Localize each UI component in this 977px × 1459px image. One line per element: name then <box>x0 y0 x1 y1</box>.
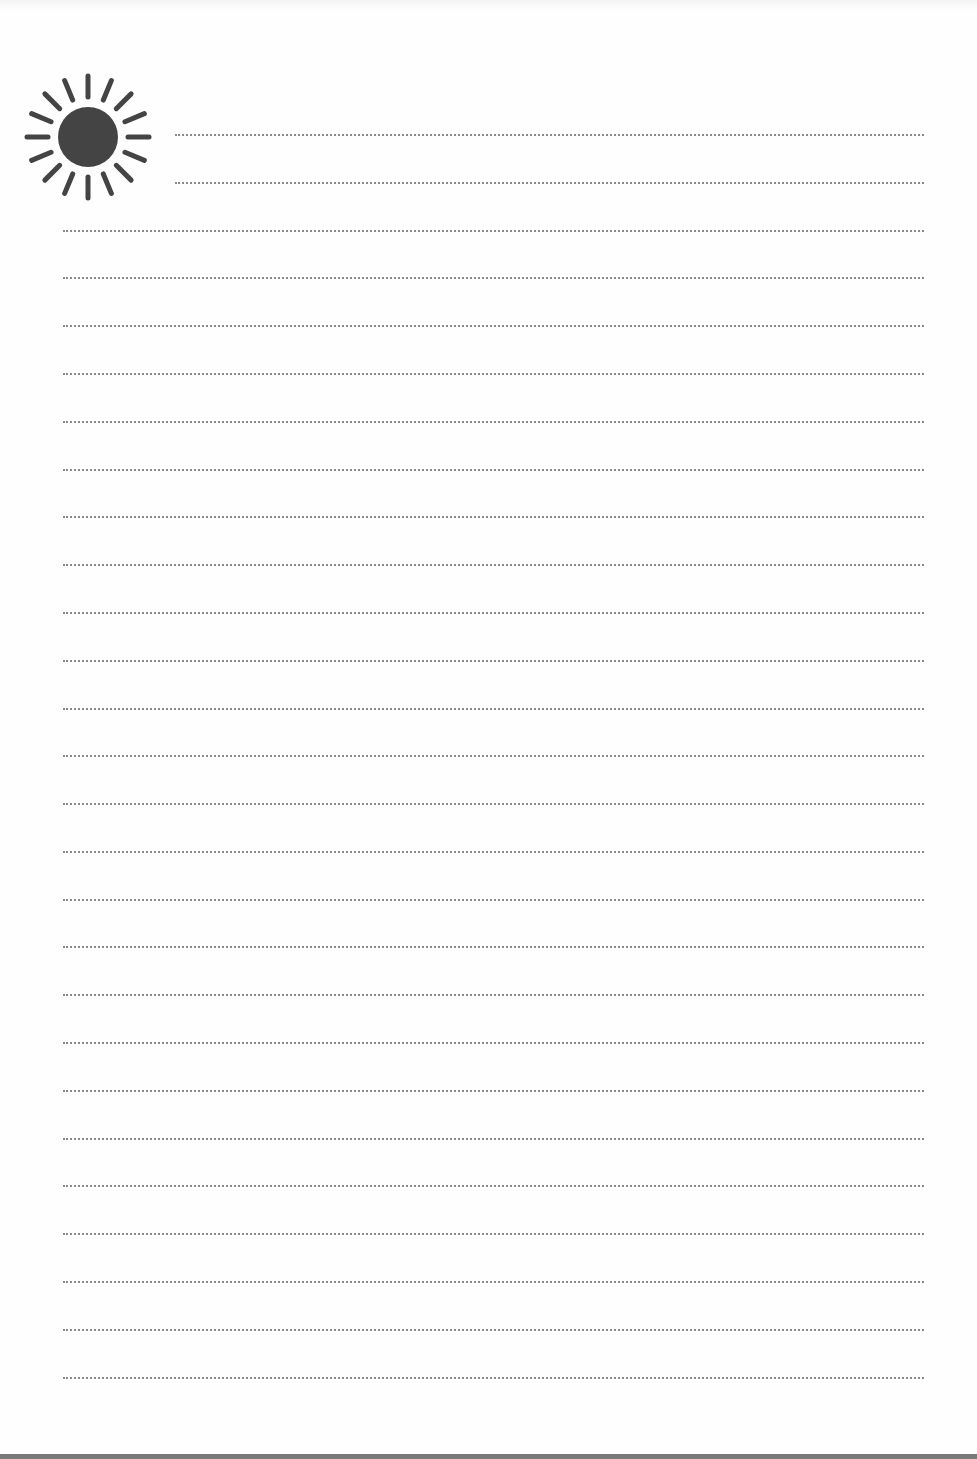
sun-ray <box>125 152 144 160</box>
ruled-line <box>63 1138 924 1140</box>
sun-ray <box>65 174 73 193</box>
sun-ray <box>32 152 51 160</box>
ruled-line <box>63 1185 924 1187</box>
ruled-line <box>63 277 924 279</box>
ruled-line <box>63 421 924 423</box>
ruled-line-short <box>175 182 924 184</box>
ruled-line <box>63 564 924 566</box>
sun-ray <box>125 114 144 122</box>
page-bottom-edge <box>0 1454 977 1459</box>
sun-ray <box>116 94 131 109</box>
ruled-line <box>63 1042 924 1044</box>
ruled-line <box>63 660 924 662</box>
ruled-line <box>63 994 924 996</box>
ruled-line <box>63 1329 924 1331</box>
ruled-line <box>63 899 924 901</box>
page-top-edge <box>0 0 977 10</box>
sun-ray <box>103 81 111 100</box>
ruled-line <box>63 325 924 327</box>
sun-icon <box>24 73 152 201</box>
sun-ray <box>45 94 60 109</box>
ruled-line <box>63 803 924 805</box>
ruled-line <box>63 1233 924 1235</box>
sun-ray <box>65 81 73 100</box>
ruled-line <box>63 1281 924 1283</box>
ruled-line-short <box>175 134 924 136</box>
sun-ray <box>103 174 111 193</box>
sun-ray <box>45 165 60 180</box>
ruled-line <box>63 516 924 518</box>
ruled-line <box>63 1377 924 1379</box>
ruled-line <box>63 755 924 757</box>
ruled-line <box>63 946 924 948</box>
ruled-line <box>63 469 924 471</box>
ruled-line <box>63 708 924 710</box>
ruled-line <box>63 373 924 375</box>
ruled-line <box>63 612 924 614</box>
ruled-line <box>63 230 924 232</box>
sun-ray <box>116 165 131 180</box>
ruled-line <box>63 851 924 853</box>
sun-ray <box>32 114 51 122</box>
ruled-line <box>63 1090 924 1092</box>
